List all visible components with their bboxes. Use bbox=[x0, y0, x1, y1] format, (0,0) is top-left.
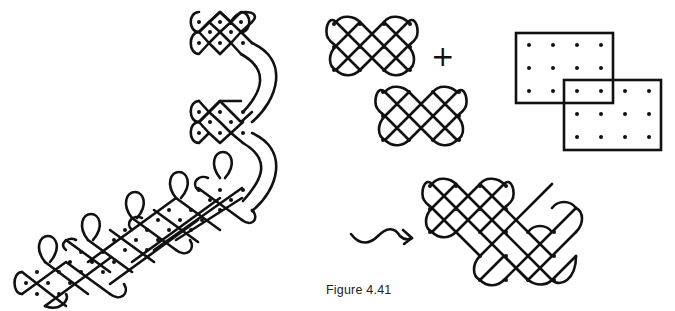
kolam-a bbox=[326, 17, 417, 76]
plus-symbol: + bbox=[431, 43, 454, 71]
chain-motif-middle bbox=[191, 101, 252, 143]
kolam-a-lattice bbox=[326, 17, 417, 76]
merged-kolam bbox=[422, 179, 582, 286]
kolam-b bbox=[375, 87, 466, 146]
overlapping-dot-grids bbox=[516, 33, 661, 150]
chain-band bbox=[15, 152, 256, 308]
figure-canvas bbox=[0, 0, 675, 311]
kolam-b-dots bbox=[381, 90, 461, 142]
figure-caption: Figure 4.41 bbox=[326, 283, 391, 297]
merged-kolam-lattice bbox=[422, 179, 582, 286]
wavy-arrow-icon bbox=[351, 229, 412, 244]
kolam-b-lattice bbox=[375, 87, 466, 146]
kolam-chain bbox=[15, 12, 277, 308]
chain-motif-top bbox=[191, 12, 255, 54]
